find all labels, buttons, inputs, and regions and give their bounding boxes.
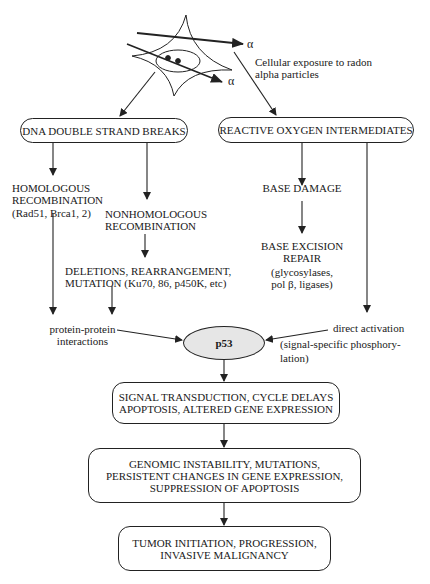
label-line: APOPTOSIS, ALTERED GENE EXPRESSION [119, 403, 333, 415]
pathway-diagram: α α Cellular exposure to radon alpha par… [0, 0, 430, 584]
label-line: GENOMIC INSTABILITY, MUTATIONS, [129, 458, 320, 470]
label-line: SUPPRESSION OF APOPTOSIS [150, 482, 300, 494]
caption-line-1: Cellular exposure to radon [255, 56, 372, 68]
node-p53: p53 [183, 326, 265, 360]
label-line: (Rad51, Brca1, 2) [12, 207, 103, 219]
alpha-label-2: α [228, 75, 234, 87]
label-line: direct activation [333, 322, 404, 334]
label-line: BASE EXCISION [255, 240, 349, 252]
node-nonhomologous-recombination: NONHOMOLOGOUS RECOMBINATION [105, 208, 207, 232]
node-dna-double-strand-breaks: DNA DOUBLE STRAND BREAKS [20, 118, 188, 143]
label-line: interactions [45, 335, 120, 347]
node-reactive-oxygen-intermediates: REACTIVE OXYGEN INTERMEDIATES [218, 117, 414, 143]
node-label: DNA DOUBLE STRAND BREAKS [22, 125, 186, 137]
alpha-label-1: α [247, 38, 253, 50]
node-direct-activation: direct activation [333, 322, 404, 334]
label-line: MUTATION (Ku70, 86, p450K, etc) [65, 277, 231, 289]
label-line: RECOMBINATION [105, 220, 207, 232]
node-label: p53 [215, 337, 232, 349]
label-line: DELETIONS, REARRANGEMENT, [65, 265, 231, 277]
exposure-caption: Cellular exposure to radon alpha particl… [255, 56, 372, 80]
label-line: protein-protein [45, 323, 120, 335]
node-label: REACTIVE OXYGEN INTERMEDIATES [219, 124, 412, 136]
node-tumor-initiation: TUMOR INITIATION, PROGRESSION, INVASIVE … [118, 526, 331, 571]
label-line: SIGNAL TRANSDUCTION, CYCLE DELAYS [119, 391, 334, 403]
node-deletions-rearrangement-mutation: DELETIONS, REARRANGEMENT, MUTATION (Ku70… [65, 265, 231, 289]
label-line: (glycosylases, [255, 266, 349, 278]
node-homologous-recombination: HOMOLOGOUS RECOMBINATION (Rad51, Brca1, … [12, 182, 103, 219]
node-protein-protein-interactions: protein-protein interactions [45, 323, 120, 347]
direct-activation-note: (signal-specific phosphory- lation) [280, 338, 401, 364]
label-line: TUMOR INITIATION, PROGRESSION, [132, 537, 317, 549]
cell-icon [132, 15, 232, 96]
label-line: lation) [280, 352, 401, 364]
caption-line-2: alpha particles [255, 68, 372, 80]
label-line: (signal-specific phosphory- [280, 338, 401, 350]
label-line: BASE DAMAGE [262, 182, 341, 194]
node-signal-transduction: SIGNAL TRANSDUCTION, CYCLE DELAYS APOPTO… [112, 382, 340, 424]
label-line: RECOMBINATION [12, 194, 103, 206]
label-line: NONHOMOLOGOUS [105, 208, 207, 220]
label-line: PERSISTENT CHANGES IN GENE EXPRESSION, [106, 470, 343, 482]
node-base-excision-repair: BASE EXCISION REPAIR (glycosylases, pol … [255, 240, 349, 290]
node-base-damage: BASE DAMAGE [262, 182, 342, 194]
label-line: HOMOLOGOUS [12, 182, 103, 194]
alpha-track-1 [137, 33, 243, 44]
label-line: pol β, ligases) [255, 278, 349, 290]
node-genomic-instability: GENOMIC INSTABILITY, MUTATIONS, PERSISTE… [88, 448, 361, 503]
label-line: REPAIR [255, 252, 349, 264]
label-line: INVASIVE MALIGNANCY [160, 549, 288, 561]
